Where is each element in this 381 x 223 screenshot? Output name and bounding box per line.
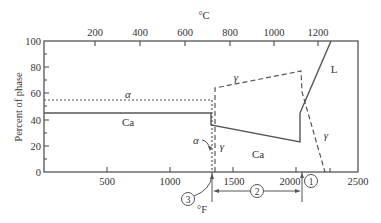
bottom-tick-1000: 1000 [160, 176, 181, 187]
left-tick-80: 80 [31, 62, 42, 73]
phase-percent-diagram: 200 400 600 800 1000 1200 °C 100 80 60 4… [0, 0, 381, 223]
marker-1-arrowhead [300, 173, 304, 178]
bottom-axis-labels: 500 1000 1500 2000 2500 °F [99, 176, 368, 215]
bottom-axis-ticks [107, 167, 330, 172]
bottom-tick-1500: 1500 [224, 176, 245, 187]
alpha-curve [44, 100, 212, 172]
alpha-arrow-label: α [193, 134, 199, 146]
left-tick-100: 100 [25, 36, 41, 47]
liquid-curve [300, 41, 331, 113]
marker-2-label: 2 [255, 187, 260, 197]
left-tick-40: 40 [31, 115, 42, 126]
carbide-curve [44, 113, 300, 142]
diagram-canvas: 200 400 600 800 1000 1200 °C 100 80 60 4… [0, 0, 381, 223]
marker-3-label: 3 [186, 195, 191, 205]
top-axis-ticks [95, 41, 318, 46]
top-tick-1200: 1200 [308, 27, 329, 38]
left-tick-20: 20 [31, 141, 42, 152]
top-tick-1000: 1000 [264, 27, 285, 38]
marker-2-arrowhead-right [295, 189, 301, 193]
bottom-tick-2000: 2000 [280, 176, 301, 187]
gamma-label-top: γ [234, 71, 239, 83]
bottom-tick-500: 500 [99, 176, 115, 187]
left-axis-labels: 100 80 60 40 20 0 Percent of phase [13, 36, 41, 178]
top-tick-800: 800 [222, 27, 238, 38]
left-axis-title: Percent of phase [13, 72, 24, 142]
marker-2-arrowhead-left [213, 189, 219, 193]
left-axis-ticks [44, 54, 49, 159]
marker-1-label: 1 [309, 177, 314, 187]
bottom-axis-unit: °F [197, 204, 207, 215]
ca-label-mid: Ca [252, 148, 264, 160]
liquid-label: L [331, 63, 338, 75]
top-tick-400: 400 [132, 27, 148, 38]
gamma-label-mid: γ [220, 140, 225, 152]
plot-frame [44, 41, 358, 172]
top-axis-unit: °C [198, 10, 209, 21]
ca-label-left: Ca [122, 116, 134, 128]
marker-3-arrowhead [210, 173, 214, 179]
marker-3-pointer [194, 176, 212, 196]
bottom-tick-2500: 2500 [348, 176, 369, 187]
left-tick-60: 60 [31, 88, 42, 99]
gamma-curve [215, 71, 325, 172]
top-axis-labels: 200 400 600 800 1000 1200 °C [87, 10, 328, 38]
alpha-label: α [125, 88, 131, 100]
top-tick-200: 200 [87, 27, 103, 38]
left-tick-0: 0 [36, 167, 41, 178]
gamma-label-right: γ [324, 129, 329, 141]
top-tick-600: 600 [177, 27, 193, 38]
